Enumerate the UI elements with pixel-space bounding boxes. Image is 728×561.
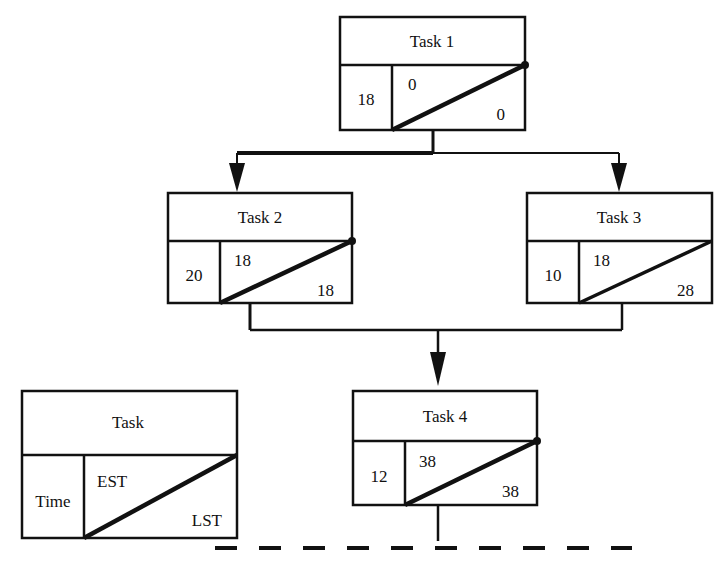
node-task-2-diagonal-endpoint [348,237,356,245]
node-task-1-est: 0 [408,75,417,94]
connector-task1-to-task3 [433,153,627,192]
legend-label-task: Task [112,413,144,432]
connector-task3-to-task4 [438,303,622,330]
node-task-2-lst: 18 [317,281,334,300]
node-task-4-label: Task 4 [423,407,468,426]
node-task-2-label: Task 2 [238,208,283,227]
node-task-4-lst: 38 [502,482,519,501]
node-task-1-lst: 0 [497,105,506,124]
node-task-3[interactable]: Task 3 10 18 28 [527,193,712,303]
legend-label-lst: LST [192,511,223,530]
node-task-1-diagonal-endpoint [521,61,529,69]
node-task-4-diagonal-endpoint [533,437,541,445]
node-task-2-est: 18 [234,251,251,270]
connector-merge-to-task4 [430,330,446,386]
node-task-3-lst: 28 [677,281,694,300]
arrowhead-task4 [430,352,446,386]
legend-key: Task Time EST LST [22,391,237,538]
node-task-3-label: Task 3 [597,208,642,227]
network-diagram: Task 1 18 0 0 Task 2 20 18 18 Task 3 10 … [0,0,728,561]
node-task-3-est: 18 [593,251,610,270]
node-task-4-time: 12 [371,467,388,486]
legend-label-time: Time [35,492,70,511]
node-task-1-label: Task 1 [410,32,455,51]
arrowhead-task3 [611,163,627,192]
diagram-canvas: Task 1 18 0 0 Task 2 20 18 18 Task 3 10 … [0,0,728,561]
connector-task1-to-task2 [229,130,433,192]
node-task-2[interactable]: Task 2 20 18 18 [168,193,356,303]
node-task-1[interactable]: Task 1 18 0 0 [340,17,529,130]
node-task-2-time: 20 [186,266,203,285]
connector-task2-to-task4 [250,303,438,330]
node-task-4[interactable]: Task 4 12 38 38 [353,391,541,505]
node-task-1-time: 18 [358,90,375,109]
legend-label-est: EST [97,472,128,491]
arrowhead-task2 [229,163,245,192]
node-task-4-est: 38 [419,452,436,471]
node-task-3-time: 10 [545,266,562,285]
